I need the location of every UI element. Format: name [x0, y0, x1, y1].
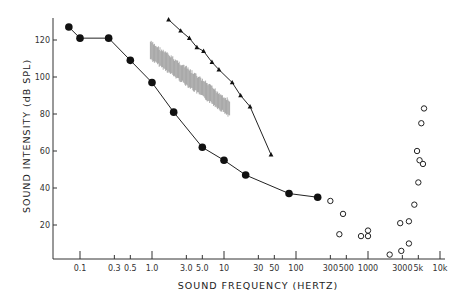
x-axis-title: SOUND FREQUENCY (HERTZ) [178, 280, 339, 291]
filled-circle-marker [199, 144, 207, 152]
triangles-series [166, 17, 273, 156]
filled-circles-series [65, 23, 321, 201]
x-tick-label: 1000 [358, 264, 378, 273]
open-circle-marker [406, 219, 411, 224]
filled-circle-marker [148, 79, 156, 87]
open-circle-marker [365, 233, 370, 238]
x-tick-label: 5k [413, 264, 423, 273]
filled-circle-marker [242, 171, 250, 179]
open-circle-marker [416, 180, 421, 185]
filled-circle-marker [127, 57, 135, 65]
x-tick-label: 0.1 [74, 264, 87, 273]
y-tick-label: 20 [40, 221, 50, 230]
filled-circle-marker [285, 190, 293, 198]
chart: 0.10.30.51.03.05.01030501003005001000300… [0, 0, 465, 304]
open-circle-marker [399, 248, 404, 253]
y-tick-label: 80 [40, 110, 50, 119]
open-circle-marker [421, 106, 426, 111]
plot-area [65, 17, 427, 257]
filled-circle-marker [220, 156, 228, 164]
x-tick-label: 10 [219, 264, 229, 273]
open-circle-marker [406, 241, 411, 246]
open-circle-marker [358, 233, 363, 238]
axes: 0.10.30.51.03.05.01030501003005001000300… [35, 18, 448, 273]
filled-circle-marker [76, 34, 84, 42]
x-tick-label: 3000 [392, 264, 412, 273]
gray-band [150, 41, 229, 117]
filled-circle-marker [170, 108, 178, 116]
filled-circle-marker [314, 193, 322, 201]
y-tick-label: 120 [35, 36, 50, 45]
open-circle-marker [328, 198, 333, 203]
open-circle-marker [397, 220, 402, 225]
filled-circle-marker [105, 34, 113, 42]
open-circle-marker [412, 202, 417, 207]
x-tick-label: 100 [288, 264, 303, 273]
triangle-marker [269, 152, 274, 156]
open-circle-marker [420, 161, 425, 166]
triangles-line [169, 20, 271, 155]
open-circle-marker [414, 148, 419, 153]
y-axis-title: SOUND INTENSITY (dB SPL) [21, 59, 32, 213]
x-tick-label: 5.0 [196, 264, 209, 273]
x-tick-label: 300 [323, 264, 338, 273]
open-circle-marker [419, 121, 424, 126]
triangle-marker [166, 17, 171, 21]
y-tick-label: 60 [40, 147, 50, 156]
x-tick-label: 3.0 [180, 264, 193, 273]
x-tick-label: 50 [269, 264, 279, 273]
y-tick-label: 100 [35, 73, 50, 82]
filled-circles-line [69, 27, 318, 197]
x-tick-label: 0.5 [124, 264, 137, 273]
x-tick-label: 0.3 [108, 264, 121, 273]
x-tick-label: 1.0 [146, 264, 159, 273]
open-circle-marker [365, 228, 370, 233]
y-tick-label: 40 [40, 184, 50, 193]
open-circle-marker [340, 211, 345, 216]
open-circles-series [328, 106, 427, 258]
x-tick-label: 30 [253, 264, 263, 273]
x-tick-label: 10k [433, 264, 448, 273]
open-circle-marker [337, 232, 342, 237]
x-tick-label: 500 [339, 264, 354, 273]
filled-circle-marker [65, 23, 73, 31]
open-circle-marker [387, 252, 392, 257]
